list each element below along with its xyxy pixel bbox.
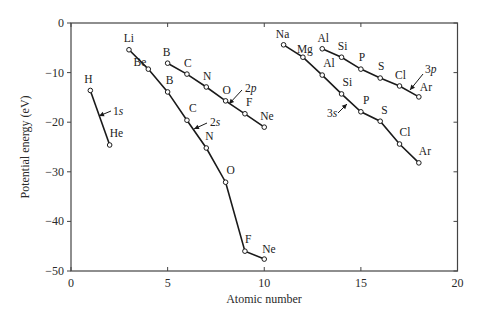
- data-point-Al: [320, 46, 325, 51]
- element-label-Ar: Ar: [420, 81, 432, 93]
- annotation-2p: 2p: [229, 82, 257, 104]
- series-2s: [127, 47, 267, 261]
- element-label-O: O: [222, 84, 230, 96]
- data-point-B: [165, 61, 170, 66]
- point-labels: HHeLiBeBCNOFNeBCNOFNeNaMgAlSiPSClArAlSiP…: [84, 28, 432, 255]
- axis-ticks: 051015200−10−20−30−40−50: [45, 16, 463, 290]
- element-label-Be: Be: [134, 56, 147, 68]
- element-label-Al: Al: [323, 57, 335, 69]
- data-point-Ne: [262, 125, 267, 130]
- data-point-H: [88, 88, 93, 93]
- data-point-Be: [146, 67, 151, 72]
- x-tick-label: 10: [258, 276, 270, 290]
- data-point-Na: [281, 43, 286, 48]
- element-label-Mg: Mg: [297, 43, 313, 56]
- orbital-label-1s: 1s: [113, 105, 124, 117]
- series-3s: [281, 43, 421, 166]
- element-label-N: N: [203, 70, 212, 82]
- x-tick-label: 15: [355, 276, 367, 290]
- element-label-S: S: [378, 60, 384, 72]
- data-point-N: [204, 85, 209, 90]
- data-point-C: [185, 118, 190, 123]
- orbital-label-2p: 2p: [245, 82, 257, 95]
- series-1s: [88, 88, 112, 147]
- y-tick-label: −10: [45, 66, 64, 80]
- x-tick-label: 5: [165, 276, 171, 290]
- element-label-P: P: [359, 51, 365, 63]
- data-point-S: [378, 76, 383, 81]
- x-tick-label: 20: [452, 276, 464, 290]
- annotation-1s: 1s: [99, 105, 124, 117]
- y-tick-label: 0: [58, 16, 64, 30]
- y-axis-title: Potential energy (eV): [18, 95, 32, 198]
- y-tick-label: −40: [45, 214, 64, 228]
- data-point-P: [359, 109, 364, 114]
- orbital-label-3s: 3s: [327, 107, 338, 119]
- data-point-Si: [339, 92, 344, 97]
- element-label-H: H: [84, 73, 92, 85]
- orbital-label-3p: 3p: [425, 63, 437, 76]
- y-tick-label: −50: [45, 264, 64, 278]
- element-label-Ar: Ar: [419, 145, 431, 157]
- orbital-label-2s: 2s: [210, 116, 221, 128]
- data-point-N: [204, 146, 209, 151]
- plot-border: [71, 23, 458, 271]
- data-point-Ar: [417, 161, 422, 166]
- element-label-Cl: Cl: [395, 69, 406, 81]
- data-point-O: [223, 180, 228, 185]
- element-label-Si: Si: [343, 76, 353, 88]
- element-label-He: He: [110, 127, 123, 139]
- element-label-O: O: [227, 164, 235, 176]
- element-label-Li: Li: [124, 32, 134, 44]
- data-point-S: [378, 119, 383, 124]
- annotation-3s: 3s: [327, 104, 347, 119]
- element-label-N: N: [205, 130, 214, 142]
- element-label-B: B: [166, 74, 174, 86]
- plot-frame: [71, 23, 458, 271]
- data-point-Si: [339, 55, 344, 60]
- element-label-C: C: [189, 102, 197, 114]
- element-label-F: F: [245, 233, 251, 245]
- data-point-F: [243, 111, 248, 116]
- element-label-S: S: [381, 104, 387, 116]
- element-label-Al: Al: [317, 32, 329, 44]
- element-label-Ne: Ne: [262, 243, 275, 255]
- data-point-Li: [127, 47, 132, 52]
- y-tick-label: −20: [45, 115, 64, 129]
- data-point-F: [243, 249, 248, 254]
- data-point-He: [107, 143, 112, 148]
- series-line-1s: [90, 91, 109, 146]
- data-point-Cl: [397, 84, 402, 89]
- element-label-P: P: [363, 94, 369, 106]
- element-label-Ne: Ne: [260, 110, 273, 122]
- data-point-B: [165, 90, 170, 95]
- series: [88, 43, 421, 262]
- element-label-F: F: [246, 96, 252, 108]
- y-tick-label: −30: [45, 165, 64, 179]
- data-point-Al: [320, 73, 325, 78]
- x-tick-label: 0: [68, 276, 74, 290]
- data-point-C: [185, 72, 190, 77]
- element-label-Cl: Cl: [400, 126, 411, 138]
- data-point-Cl: [397, 142, 402, 147]
- data-point-Mg: [301, 55, 306, 60]
- data-point-Ne: [262, 257, 267, 262]
- x-axis-title: Atomic number: [226, 292, 302, 306]
- annotation-2s: 2s: [194, 116, 221, 129]
- element-label-B: B: [163, 46, 171, 58]
- element-label-C: C: [184, 57, 192, 69]
- chart: 051015200−10−20−30−40−50 HHeLiBeBCNOFNeB…: [0, 0, 482, 315]
- element-label-Si: Si: [338, 40, 348, 52]
- data-point-P: [359, 67, 364, 72]
- data-point-Ar: [417, 95, 422, 100]
- element-label-Na: Na: [276, 28, 289, 40]
- data-point-O: [223, 99, 228, 104]
